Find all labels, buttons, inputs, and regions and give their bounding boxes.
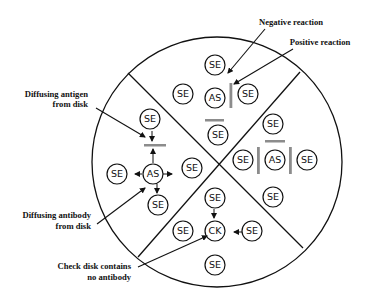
- disk-top-as: AS: [205, 88, 225, 108]
- disk-label: SE: [186, 162, 198, 173]
- disk-top-se: SE: [238, 84, 258, 104]
- disk-label: SE: [267, 191, 279, 202]
- disk-label: SE: [301, 154, 313, 165]
- disk-bottom-se: SE: [205, 188, 225, 208]
- disk-bottom-se: SE: [205, 255, 225, 275]
- disk-top-se: SE: [205, 55, 225, 75]
- disk-left-se: SE: [140, 109, 160, 129]
- leader-antigen: [96, 108, 145, 137]
- disk-label: SE: [209, 59, 221, 70]
- label-negative-reaction: Negative reaction: [259, 17, 323, 27]
- disk-label: SE: [209, 192, 221, 203]
- disk-right-se: SE: [297, 150, 317, 170]
- disk-label: SE: [246, 225, 258, 236]
- disk-left-se: SE: [182, 158, 202, 178]
- disk-label: AS: [209, 92, 222, 103]
- disk-label: SE: [237, 154, 249, 165]
- leader-positive: [234, 49, 293, 84]
- disk-left-se: SE: [148, 195, 168, 215]
- negative-band-top: [205, 119, 224, 122]
- label-check-line2: no antibody: [87, 272, 131, 282]
- band-right-left: [257, 147, 260, 174]
- annotation-leaders: [96, 29, 293, 267]
- disk-label: SE: [267, 118, 279, 129]
- disk-label: SE: [209, 259, 221, 270]
- disk-right-se: SE: [263, 187, 283, 207]
- label-check-line1: Check disk contains: [57, 261, 131, 271]
- disk-right-as: AS: [265, 150, 285, 170]
- leader-antibody: [97, 188, 145, 224]
- band-left: [144, 144, 166, 147]
- disk-bottom-ck: CK: [205, 221, 225, 241]
- disk-right-se: SE: [263, 114, 283, 134]
- disk-label: SE: [111, 168, 123, 179]
- disk-left-se: SE: [107, 164, 127, 184]
- disk-bottom-se: SE: [173, 221, 193, 241]
- leader-negative: [228, 29, 265, 73]
- disk-label: SE: [242, 88, 254, 99]
- label-positive-reaction: Positive reaction: [290, 37, 351, 47]
- disk-label: SE: [177, 225, 189, 236]
- label-antigen-line1: Diffusing antigen: [25, 89, 88, 99]
- disk-left-as: AS: [143, 164, 163, 184]
- disk-label: AS: [269, 154, 282, 165]
- positive-band-top: [230, 83, 233, 108]
- diffusion-diagram: SESEASSESESEASSESESESEASSESESESECKSESESE…: [0, 0, 376, 302]
- leader-check: [138, 236, 207, 267]
- disk-label: SE: [144, 113, 156, 124]
- disk-label: SE: [152, 199, 164, 210]
- disk-label: CK: [209, 225, 223, 236]
- disk-label: SE: [177, 88, 189, 99]
- label-antibody-line1: Diffusing antibody: [22, 210, 91, 220]
- disk-bottom-se: SE: [242, 221, 262, 241]
- label-antibody-line2: from disk: [56, 221, 92, 231]
- disk-top-se: SE: [173, 84, 193, 104]
- band-right-right: [289, 147, 292, 174]
- band-right-top: [265, 140, 285, 143]
- disk-label: SE: [212, 129, 224, 140]
- disk-top-se: SE: [208, 125, 228, 145]
- disk-label: AS: [147, 168, 160, 179]
- label-antigen-line2: from disk: [53, 99, 89, 109]
- disk-right-se: SE: [233, 150, 253, 170]
